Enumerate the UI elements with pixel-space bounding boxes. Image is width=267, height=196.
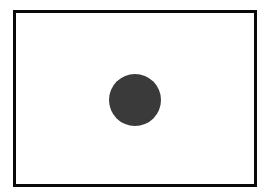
filled-circle (109, 74, 161, 126)
diagram-canvas (0, 0, 267, 196)
